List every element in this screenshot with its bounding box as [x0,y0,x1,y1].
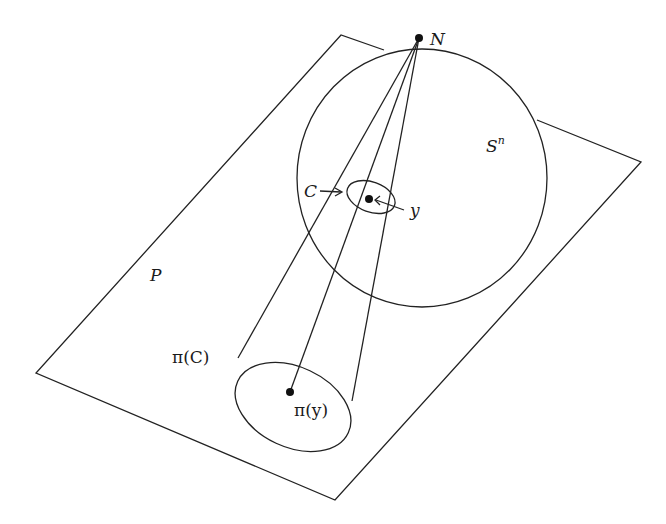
projected-point-pi-y [286,388,294,396]
projection-line-right [352,38,419,401]
projection-line-center [290,38,419,392]
plane-edge-visible [36,35,641,500]
label-pi-c: π(C) [172,347,209,367]
point-y [365,195,373,203]
label-c: C [304,181,317,201]
projected-circle-pi-c [221,345,365,469]
label-pi-y: π(y) [294,400,328,420]
label-p: P [149,265,162,285]
label-s-n: Sn [486,134,505,156]
label-n: N [429,29,446,49]
label-y: y [409,200,420,220]
north-pole-point [415,34,423,42]
projection-line-left [238,38,419,358]
plane-p [36,35,641,500]
stereographic-projection-figure: N Sn P C y π(C) π(y) [0,0,666,524]
